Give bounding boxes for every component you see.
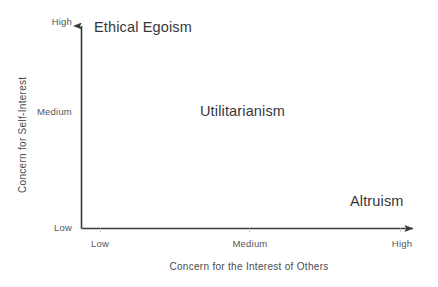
y-tick-label-low: Low [0, 223, 72, 233]
concept-label-ethical-egoism: Ethical Egoism [94, 20, 192, 35]
x-tick-label-low: Low [91, 239, 109, 249]
concept-label-altruism: Altruism [350, 194, 404, 209]
x-tick-label-high: High [392, 239, 412, 249]
x-axis-title: Concern for the Interest of Others [169, 262, 328, 272]
x-tick-label-medium: Medium [233, 239, 268, 249]
chart-axes [0, 0, 438, 287]
y-axis-title: Concern for Self-Interest [18, 77, 28, 193]
concept-label-utilitarianism: Utilitarianism [200, 104, 285, 119]
y-tick-label-medium: Medium [0, 107, 72, 117]
y-tick-label-high: High [0, 17, 72, 27]
quadrant-chart: High Medium Low Low Medium High Concern … [0, 0, 438, 287]
